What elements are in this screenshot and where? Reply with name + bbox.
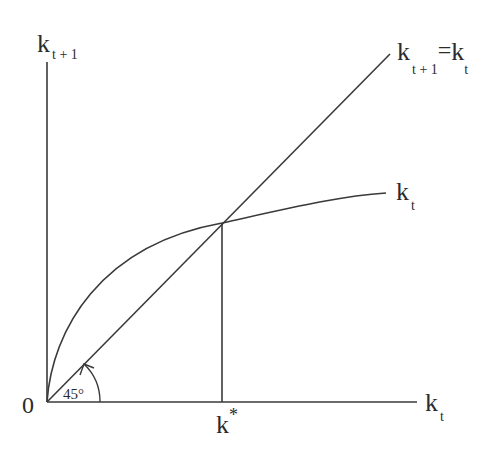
origin-label: 0 bbox=[22, 392, 34, 418]
angle-label: 45° bbox=[63, 386, 84, 402]
forty-five-degree-line bbox=[47, 54, 390, 402]
diagonal-label: kt + 1=kt bbox=[397, 37, 468, 77]
steady-state-label: k* bbox=[216, 405, 238, 439]
x-axis-label: kt bbox=[425, 388, 444, 424]
phase-diagram: kt + 1 kt + 1=kt kt kt 0 45° k* bbox=[0, 0, 488, 451]
y-axis-label: kt + 1 bbox=[37, 29, 78, 62]
angle-arc bbox=[84, 364, 100, 402]
curve-label: kt bbox=[396, 177, 415, 213]
accumulation-curve bbox=[47, 193, 386, 402]
